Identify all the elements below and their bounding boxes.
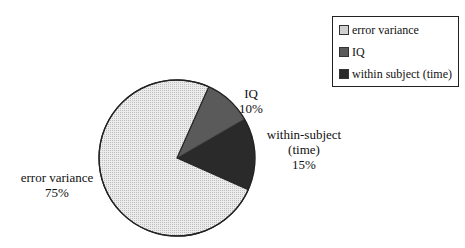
legend-label: within subject (time) [352,67,452,81]
iq-label-name: IQ [236,86,266,101]
legend-item-error-variance: error variance [339,23,419,37]
legend-swatch-icon [339,69,349,79]
within-label-pct: 15% [260,157,348,172]
legend-swatch-icon [339,25,349,35]
slice-label-within: within-subject (time) 15% [260,127,348,172]
legend: error variance IQ within subject (time) [332,16,459,87]
legend-swatch-icon [339,47,349,57]
within-label-line1: within-subject [260,127,348,142]
iq-label-pct: 10% [236,101,266,116]
legend-item-iq: IQ [339,45,365,59]
error-label-pct: 75% [14,185,100,200]
slice-label-iq: IQ 10% [236,86,266,116]
legend-item-within-subject: within subject (time) [339,67,452,81]
legend-label: error variance [352,23,419,37]
error-label-name: error variance [14,170,100,185]
within-label-line2: (time) [260,142,348,157]
legend-label: IQ [352,45,365,59]
slice-label-error: error variance 75% [14,170,100,200]
